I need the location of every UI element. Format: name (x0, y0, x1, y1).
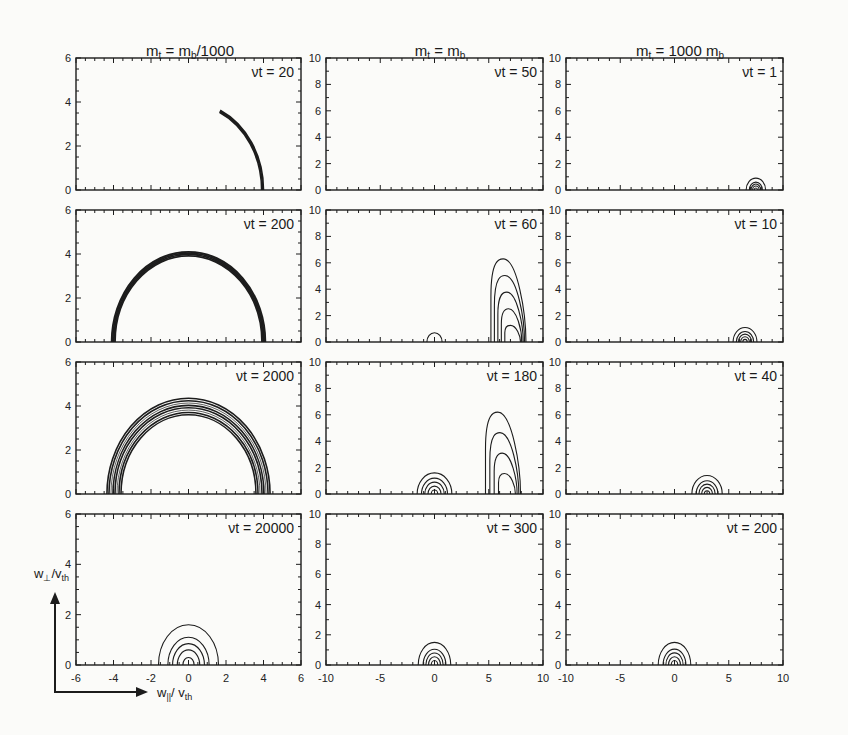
panel-label: νt = 180 (487, 368, 537, 384)
panel-label: νt = 60 (495, 216, 537, 232)
y-tick-label: 6 (315, 105, 321, 117)
y-tick-label: 4 (555, 131, 561, 143)
panel-label: νt = 200 (244, 216, 294, 232)
y-tick-label: 0 (65, 184, 71, 196)
y-tick-label: 8 (555, 382, 561, 394)
y-tick-label: 6 (315, 409, 321, 421)
y-tick-label: 4 (555, 435, 561, 447)
y-tick-label: 0 (65, 336, 71, 348)
y-tick-label: 6 (315, 257, 321, 269)
axis-w: w (157, 685, 166, 700)
y-tick-label: 6 (555, 105, 561, 117)
y-tick-label: 10 (549, 52, 561, 64)
y-tick-label: 0 (555, 336, 561, 348)
axis-rest: /v (51, 566, 61, 581)
x-tick-label: -5 (375, 672, 385, 684)
x-tick-label: -5 (615, 672, 625, 684)
y-tick-label: 2 (65, 292, 71, 304)
y-tick-label: 6 (65, 52, 71, 64)
y-tick-label: 6 (315, 568, 321, 580)
axis-w: w (34, 566, 43, 581)
y-tick-label: 0 (555, 488, 561, 500)
y-tick-label: 0 (65, 659, 71, 671)
y-tick-label: 6 (65, 356, 71, 368)
panel-label: νt = 1 (742, 64, 777, 80)
y-tick-label: 2 (315, 310, 321, 322)
x-tick-label: 4 (260, 672, 266, 684)
y-tick-label: 0 (315, 336, 321, 348)
y-tick-label: 2 (315, 462, 321, 474)
panel-label: νt = 20 (252, 64, 294, 80)
y-tick-label: 4 (555, 599, 561, 611)
y-tick-label: 0 (315, 659, 321, 671)
y-tick-label: 4 (65, 400, 71, 412)
y-tick-label: 0 (315, 488, 321, 500)
y-tick-label: 6 (65, 508, 71, 520)
x-tick-label: 0 (671, 672, 677, 684)
y-tick-label: 8 (315, 78, 321, 90)
y-tick-label: 8 (315, 382, 321, 394)
y-tick-label: 2 (315, 158, 321, 170)
y-tick-label: 10 (549, 204, 561, 216)
panel-frame (76, 514, 301, 665)
y-tick-label: 4 (555, 283, 561, 295)
y-tick-label: 2 (555, 310, 561, 322)
x-tick-label: -10 (318, 672, 334, 684)
x-tick-label: -6 (71, 672, 81, 684)
x-tick-label: 0 (431, 672, 437, 684)
x-tick-label: -10 (558, 672, 574, 684)
panel-label: νt = 40 (735, 368, 777, 384)
y-tick-label: 0 (555, 659, 561, 671)
y-tick-label: 8 (315, 230, 321, 242)
x-tick-label: 0 (185, 672, 191, 684)
panel-label: νt = 20000 (228, 520, 294, 536)
y-tick-label: 8 (555, 230, 561, 242)
y-tick-label: 4 (315, 599, 321, 611)
y-tick-label: 2 (315, 629, 321, 641)
y-tick-label: 4 (65, 96, 71, 108)
y-tick-label: 2 (555, 462, 561, 474)
axis-rest: / v (171, 685, 185, 700)
y-tick-label: 8 (555, 538, 561, 550)
y-tick-label: 2 (65, 609, 71, 621)
y-tick-label: 10 (309, 204, 321, 216)
y-tick-label: 10 (549, 508, 561, 520)
panel-label: νt = 50 (495, 64, 537, 80)
y-tick-label: 6 (555, 568, 561, 580)
x-tick-label: -2 (146, 672, 156, 684)
y-tick-label: 4 (315, 283, 321, 295)
x-tick-label: 5 (486, 672, 492, 684)
y-tick-label: 10 (309, 52, 321, 64)
panel-label: νt = 2000 (236, 368, 294, 384)
y-tick-label: 6 (555, 409, 561, 421)
x-tick-label: 5 (726, 672, 732, 684)
panel-label: νt = 200 (727, 520, 777, 536)
y-tick-label: 0 (65, 488, 71, 500)
y-tick-label: 10 (549, 356, 561, 368)
y-tick-label: 2 (555, 629, 561, 641)
y-tick-label: 4 (65, 248, 71, 260)
y-tick-label: 8 (315, 538, 321, 550)
x-tick-label: 10 (537, 672, 549, 684)
y-tick-label: 10 (309, 508, 321, 520)
y-tick-label: 2 (65, 444, 71, 456)
axis-sub2: th (62, 573, 70, 583)
contour-figure: 0246024602460246-6-4-2024602468100246810… (0, 0, 848, 735)
y-tick-label: 10 (309, 356, 321, 368)
y-axis-title: w⊥/vth (34, 566, 69, 583)
panel-label: νt = 10 (735, 216, 777, 232)
y-tick-label: 2 (65, 140, 71, 152)
y-tick-label: 6 (555, 257, 561, 269)
y-tick-label: 4 (315, 131, 321, 143)
y-tick-label: 4 (315, 435, 321, 447)
x-tick-label: 6 (298, 672, 304, 684)
x-tick-label: 2 (223, 672, 229, 684)
y-tick-label: 6 (65, 204, 71, 216)
y-tick-label: 8 (555, 78, 561, 90)
axis-sub2: th (185, 692, 193, 702)
x-tick-label: -4 (109, 672, 119, 684)
y-tick-label: 2 (555, 158, 561, 170)
y-tick-label: 0 (555, 184, 561, 196)
y-tick-label: 0 (315, 184, 321, 196)
panel-label: νt = 300 (487, 520, 537, 536)
